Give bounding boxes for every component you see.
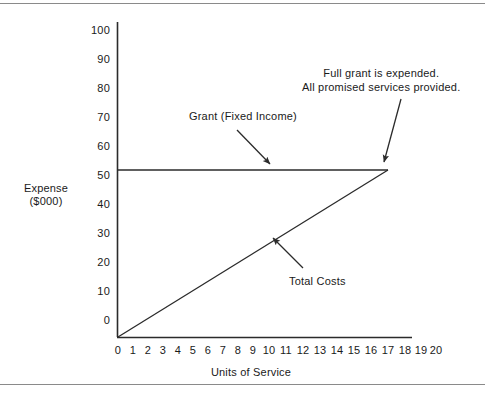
y-axis-title: Expense ($000)	[8, 182, 84, 208]
y-tick-label: 60	[76, 141, 110, 152]
x-tick-label: 11	[278, 345, 294, 356]
y-tick-label: 10	[76, 286, 110, 297]
x-tick-label: 4	[170, 345, 186, 356]
x-tick-label: 14	[329, 345, 345, 356]
annotation-breakeven-line1: Full grant is expended.	[302, 67, 460, 81]
y-axis-title-line2: ($000)	[8, 195, 84, 208]
annotation-leader-breakeven	[384, 99, 401, 162]
x-tick-label: 12	[295, 345, 311, 356]
x-tick-label: 16	[363, 345, 379, 356]
y-tick-label: 80	[76, 83, 110, 94]
y-tick-label: 30	[76, 228, 110, 239]
annotation-leader-grant	[237, 130, 270, 164]
x-tick-label: 10	[261, 345, 277, 356]
figure-container: 100 90 80 70 60 50 40 30 20 10 0 0 1 2 3…	[0, 0, 485, 396]
y-tick-label: 70	[76, 112, 110, 123]
x-tick-label: 18	[397, 345, 413, 356]
x-tick-label: 5	[185, 345, 201, 356]
annotation-leader-total-costs	[273, 238, 303, 268]
y-axis-title-line1: Expense	[8, 182, 84, 195]
x-tick-label: 0	[110, 345, 126, 356]
series-total-costs-line	[118, 170, 388, 337]
y-tick-label: 100	[76, 25, 110, 36]
x-tick-label: 8	[230, 345, 246, 356]
x-tick-label: 6	[200, 345, 216, 356]
x-tick-label: 2	[140, 345, 156, 356]
annotation-breakeven: Full grant is expended. All promised ser…	[302, 67, 460, 94]
y-tick-label: 50	[76, 170, 110, 181]
x-tick-label: 15	[346, 345, 362, 356]
x-tick-label: 17	[380, 345, 396, 356]
x-tick-label: 1	[125, 345, 141, 356]
annotation-breakeven-line2: All promised services provided.	[302, 81, 460, 95]
y-tick-label: 90	[76, 54, 110, 65]
annotation-total-costs: Total Costs	[289, 275, 346, 288]
x-tick-label: 20	[428, 345, 444, 356]
x-tick-label: 19	[413, 345, 429, 356]
y-tick-label: 20	[76, 257, 110, 268]
x-tick-label: 7	[215, 345, 231, 356]
x-tick-label: 3	[155, 345, 171, 356]
annotation-grant-fixed-income: Grant (Fixed Income)	[189, 110, 297, 123]
y-tick-label: 0	[76, 315, 110, 326]
x-axis-title: Units of Service	[186, 366, 316, 379]
x-tick-label: 9	[245, 345, 261, 356]
x-tick-label: 13	[312, 345, 328, 356]
